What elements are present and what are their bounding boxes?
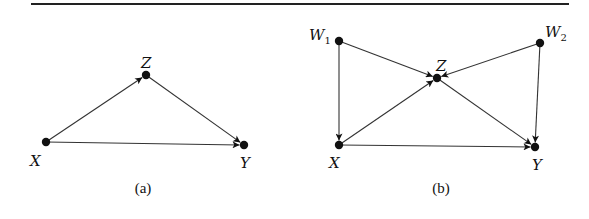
edge-x-to-z — [339, 81, 433, 145]
node-label-y: Y — [240, 154, 252, 172]
edge-x-to-y — [46, 142, 240, 145]
node-y — [240, 141, 248, 149]
node-label-w1: W1 — [309, 26, 331, 46]
node-x — [42, 138, 50, 146]
node-label-z: Z — [435, 57, 447, 75]
panel-caption-a: (a) — [135, 180, 152, 197]
edge-x-to-y — [339, 145, 531, 147]
edge-w2-to-z — [441, 43, 540, 77]
node-z — [142, 71, 150, 79]
causal-diagram-figure: XZY(a)W1W2ZXY(b) — [0, 0, 589, 219]
panel-caption-b: (b) — [432, 180, 450, 197]
node-y — [531, 143, 539, 151]
node-subscript: 1 — [324, 35, 330, 46]
panel-a: XZY(a) — [29, 54, 252, 197]
node-z — [433, 74, 441, 82]
node-w2 — [536, 39, 544, 47]
node-label-w2: W2 — [545, 23, 567, 43]
edge-x-to-z — [46, 78, 142, 142]
panel-b: W1W2ZXY(b) — [309, 23, 567, 197]
node-x — [335, 141, 343, 149]
edge-w1-to-z — [339, 41, 433, 76]
edge-z-to-y — [146, 75, 240, 142]
node-label-y: Y — [532, 156, 544, 174]
edge-z-to-y — [437, 78, 531, 144]
node-subscript: 2 — [560, 32, 566, 43]
node-label-x: X — [328, 154, 341, 172]
node-label-z: Z — [140, 54, 152, 72]
edge-w2-to-y — [535, 43, 540, 143]
node-w1 — [335, 37, 343, 45]
node-label-x: X — [29, 152, 42, 170]
